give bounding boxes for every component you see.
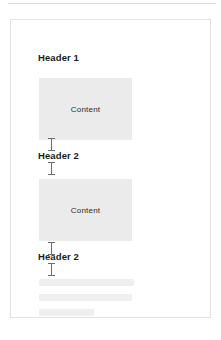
caret-stem [51,264,52,275]
document-page[interactable]: Header 1 Content Header 2 Content Header… [10,19,211,318]
caret-serif-bottom [48,174,55,175]
caret-serif-bottom [48,275,55,276]
content-placeholder-block-1[interactable]: Content [39,78,132,140]
text-caret-icon [48,263,55,276]
heading-level-2-second[interactable]: Header 2 [38,251,79,262]
top-divider-rule [8,3,216,4]
placeholder-text-line [39,294,132,301]
document-body: Header 1 Content Header 2 Content Header… [11,20,210,317]
caret-stem [51,163,52,174]
content-placeholder-label: Content [71,105,100,114]
heading-level-2-first[interactable]: Header 2 [38,150,79,161]
text-caret-icon [48,162,55,175]
content-placeholder-label: Content [71,206,100,215]
placeholder-text-line [39,309,94,316]
heading-level-1[interactable]: Header 1 [38,52,79,63]
content-placeholder-block-2[interactable]: Content [39,179,132,241]
caret-stem [51,139,52,150]
placeholder-text-line [39,279,134,286]
